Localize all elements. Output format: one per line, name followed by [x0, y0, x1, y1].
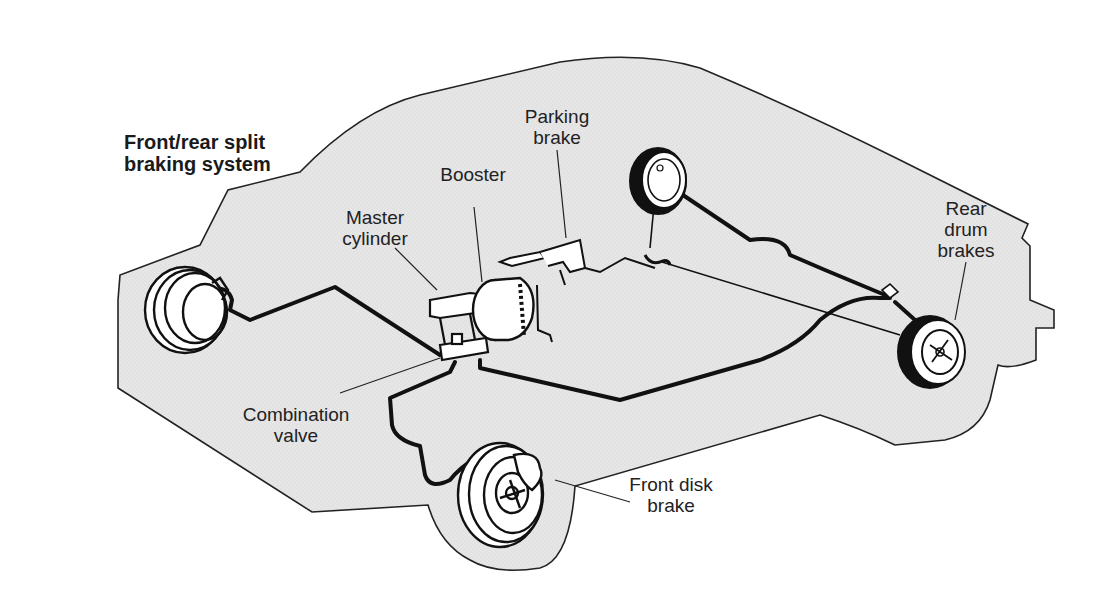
front-right-disk-brake [458, 443, 543, 547]
title-line-1: Front/rear split [124, 131, 271, 153]
label-rear-drum-brakes: Rear drum brakes [926, 198, 1006, 261]
label-front-disk-brake: Front disk brake [616, 474, 726, 516]
diagram-title: Front/rear split braking system [124, 131, 271, 175]
label-master-cylinder: Master cylinder [335, 207, 415, 249]
title-line-2: braking system [124, 153, 271, 175]
label-parking-brake: Parking brake [512, 106, 602, 148]
braking-system-diagram [0, 0, 1099, 600]
rear-left-drum-brake [630, 148, 686, 214]
label-combination-valve: Combination valve [226, 404, 366, 446]
label-booster: Booster [428, 164, 518, 185]
